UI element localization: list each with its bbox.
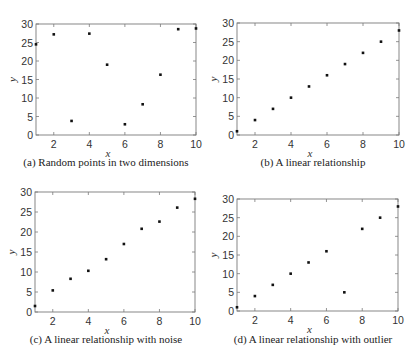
data-point-marker <box>325 250 328 253</box>
y-tick-label: 10 <box>222 268 234 280</box>
x-tick-label: 10 <box>392 314 404 326</box>
caption-d: (d) A linear relationship with outlier <box>213 333 413 345</box>
data-point-marker <box>379 216 382 219</box>
x-tick-label: 8 <box>359 314 365 326</box>
data-point-marker <box>236 306 239 309</box>
y-axis-label: y <box>207 252 219 258</box>
x-tick-label: 6 <box>324 314 330 326</box>
data-point-marker <box>307 261 310 264</box>
x-tick-label: 4 <box>288 314 294 326</box>
data-point-marker <box>289 272 292 275</box>
y-tick-label: 30 <box>222 193 234 205</box>
data-point-marker <box>361 228 364 231</box>
y-tick-label: 20 <box>222 230 234 242</box>
scatter-plot-d: 246810051015202530xy <box>0 0 419 362</box>
y-tick-label: 15 <box>222 249 234 261</box>
data-point-marker <box>254 295 257 298</box>
data-point-marker <box>271 284 274 287</box>
x-tick-label: 2 <box>252 314 258 326</box>
plot-area-frame <box>237 199 398 311</box>
data-point-marker <box>343 291 346 294</box>
y-tick-label: 25 <box>222 212 234 224</box>
y-tick-label: 5 <box>228 286 234 298</box>
y-tick-label: 0 <box>228 305 234 317</box>
data-point-marker <box>397 205 400 208</box>
